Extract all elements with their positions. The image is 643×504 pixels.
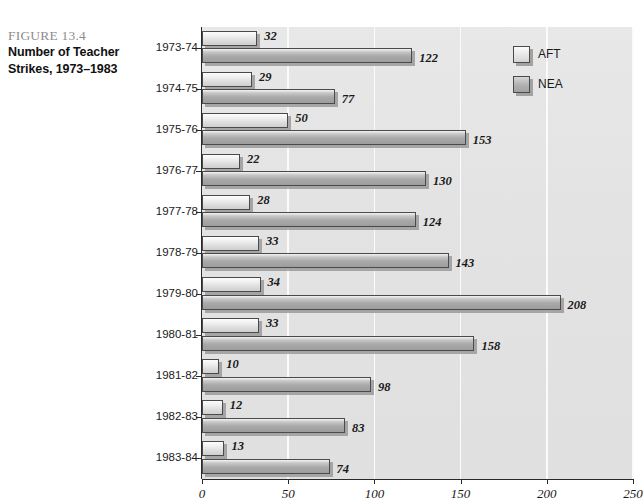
- bar-nea-value: 153: [473, 134, 492, 147]
- bar-aft-value: 28: [257, 194, 270, 207]
- x-tick-0: [202, 479, 203, 484]
- bar-nea[interactable]: [202, 418, 345, 433]
- x-tick-150: [461, 479, 462, 484]
- x-tick-50: [288, 479, 289, 484]
- bar-aft-value: 34: [268, 276, 281, 289]
- bar-nea-value: 74: [337, 463, 350, 476]
- bar-aft[interactable]: [202, 154, 240, 169]
- bar-nea[interactable]: [202, 212, 416, 227]
- x-tick-label-50: 50: [282, 486, 295, 502]
- category-label: 1976-77: [98, 164, 198, 176]
- bar-nea-value: 158: [481, 340, 500, 353]
- bar-nea[interactable]: [202, 171, 426, 186]
- bar-aft-value: 50: [295, 112, 308, 125]
- legend-label: NEA: [538, 77, 563, 91]
- x-tick-label-200: 200: [537, 486, 557, 502]
- bar-row: 1980-8133158: [0, 315, 643, 356]
- category-label: 1974-75: [98, 82, 198, 94]
- chart-legend: AFTNEA: [513, 44, 583, 104]
- x-tick-label-150: 150: [451, 486, 471, 502]
- bar-nea-value: 208: [568, 299, 587, 312]
- value-axis-line: [202, 479, 633, 480]
- bar-aft-value: 22: [247, 153, 260, 166]
- category-label: 1983-84: [98, 451, 198, 463]
- bar-nea-value: 83: [352, 422, 365, 435]
- bar-aft[interactable]: [202, 400, 223, 415]
- x-tick-200: [547, 479, 548, 484]
- bar-nea[interactable]: [202, 336, 474, 351]
- bar-nea-value: 130: [433, 175, 452, 188]
- bar-aft[interactable]: [202, 195, 250, 210]
- bar-aft-value: 33: [266, 235, 279, 248]
- category-label: 1975-76: [98, 123, 198, 135]
- x-tick-label-250: 250: [623, 486, 643, 502]
- bar-nea-value: 124: [423, 216, 442, 229]
- bar-row: 1978-7933143: [0, 232, 643, 273]
- bar-aft[interactable]: [202, 318, 259, 333]
- bar-row: 1979-8034208: [0, 274, 643, 315]
- category-label: 1982-83: [98, 410, 198, 422]
- bar-nea[interactable]: [202, 48, 412, 63]
- bar-nea[interactable]: [202, 89, 335, 104]
- legend-label: AFT: [538, 47, 561, 61]
- bar-nea-value: 98: [378, 381, 391, 394]
- category-label: 1977-78: [98, 205, 198, 217]
- bar-aft-value: 32: [264, 30, 277, 43]
- bar-aft[interactable]: [202, 441, 224, 456]
- bar-aft-value: 33: [266, 317, 279, 330]
- bar-aft-value: 10: [226, 358, 239, 371]
- legend-item-nea[interactable]: NEA: [513, 74, 583, 104]
- bar-aft-value: 13: [231, 440, 244, 453]
- x-tick-100: [374, 479, 375, 484]
- bar-aft[interactable]: [202, 113, 288, 128]
- bar-aft[interactable]: [202, 359, 219, 374]
- bar-row: 1975-7650153: [0, 109, 643, 150]
- bar-aft-value: 29: [259, 71, 272, 84]
- category-label: 1981-82: [98, 369, 198, 381]
- bar-aft[interactable]: [202, 277, 261, 292]
- bar-row: 1976-7722130: [0, 150, 643, 191]
- bar-aft[interactable]: [202, 31, 257, 46]
- bar-nea[interactable]: [202, 377, 371, 392]
- bar-nea[interactable]: [202, 459, 330, 474]
- figure-container: FIGURE 13.4 Number of Teacher Strikes, 1…: [0, 0, 643, 504]
- bar-aft[interactable]: [202, 236, 259, 251]
- bar-row: 1982-831283: [0, 397, 643, 438]
- bar-aft[interactable]: [202, 72, 252, 87]
- x-tick-label-0: 0: [199, 486, 206, 502]
- bar-row: 1977-7828124: [0, 191, 643, 232]
- legend-swatch-aft: [513, 46, 530, 63]
- legend-item-aft[interactable]: AFT: [513, 44, 583, 74]
- bar-aft-value: 12: [230, 399, 243, 412]
- bar-nea[interactable]: [202, 295, 561, 310]
- category-label: 1979-80: [98, 287, 198, 299]
- category-label: 1973-74: [98, 41, 198, 53]
- bar-row: 1981-821098: [0, 356, 643, 397]
- bar-nea-value: 143: [456, 257, 475, 270]
- bar-nea[interactable]: [202, 130, 466, 145]
- legend-swatch-nea: [513, 76, 530, 93]
- bar-nea-value: 77: [342, 93, 355, 106]
- category-label: 1980-81: [98, 328, 198, 340]
- x-tick-250: [633, 479, 634, 484]
- x-tick-label-100: 100: [365, 486, 385, 502]
- bar-nea-value: 122: [419, 52, 438, 65]
- bar-row: 1983-841374: [0, 438, 643, 479]
- bar-nea[interactable]: [202, 253, 449, 268]
- category-label: 1978-79: [98, 246, 198, 258]
